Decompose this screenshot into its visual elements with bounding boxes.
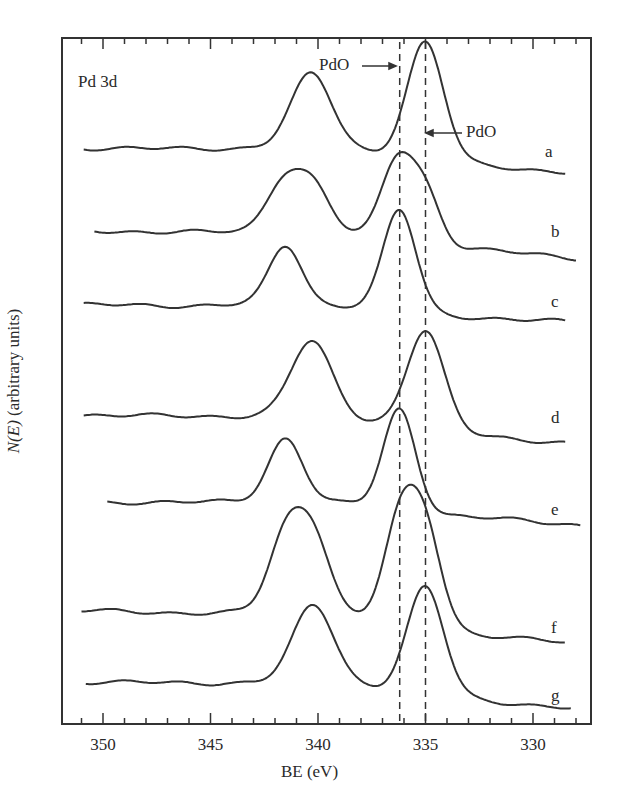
trace-label-e: e — [551, 500, 559, 520]
x-tick-340: 340 — [305, 735, 331, 755]
y-axis-label-symbol: N(E) — [4, 420, 23, 453]
pdo-label-right: PdO — [466, 122, 496, 142]
pdo-label-left: PdO — [319, 55, 349, 75]
spectra-traces — [82, 42, 581, 709]
trace-label-c: c — [551, 292, 559, 312]
trace-label-g: g — [551, 686, 560, 706]
trace-label-f: f — [551, 618, 557, 638]
x-tick-330: 330 — [520, 735, 546, 755]
trace-label-a: a — [545, 142, 553, 162]
trace-c — [84, 210, 566, 321]
trace-e — [107, 409, 580, 526]
y-axis-label-units: (arbitrary units) — [4, 309, 23, 420]
trace-d — [84, 331, 566, 443]
axis-ticks — [82, 38, 577, 724]
reference-lines — [400, 42, 426, 724]
x-axis-label: BE (eV) — [0, 762, 619, 782]
spectra-plot — [0, 0, 619, 802]
x-tick-335: 335 — [413, 735, 439, 755]
x-tick-350: 350 — [90, 735, 116, 755]
trace-g — [86, 586, 571, 709]
chart-title: Pd 3d — [78, 72, 117, 92]
trace-f — [82, 485, 565, 643]
x-tick-345: 345 — [198, 735, 224, 755]
trace-label-b: b — [551, 222, 560, 242]
trace-label-d: d — [551, 408, 560, 428]
pdo-arrows — [362, 63, 462, 136]
